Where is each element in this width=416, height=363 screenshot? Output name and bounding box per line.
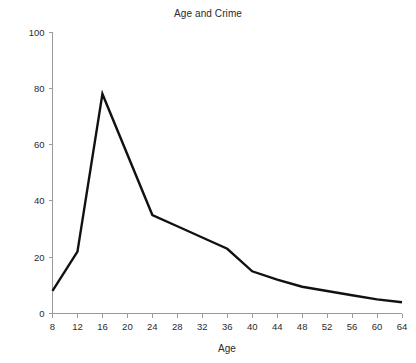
x-axis: 81216202428323640444852566064 [50,314,407,332]
x-tick-label: 16 [97,321,108,332]
chart-container: Age and Crime Crime Rate Age 02040608010… [0,0,416,363]
x-tick-label: 64 [397,321,408,332]
y-axis: 020406080100 [29,27,53,320]
x-tick-label: 56 [347,321,358,332]
x-tick-label: 48 [297,321,308,332]
plot-area: 020406080100 812162024283236404448525660… [0,0,416,363]
x-tick-label: 28 [172,321,183,332]
y-tick-label: 0 [39,308,44,319]
x-tick-label: 12 [72,321,83,332]
y-tick-label: 60 [34,139,45,150]
x-tick-label: 20 [122,321,133,332]
x-tick-group: 81216202428323640444852566064 [50,314,407,332]
x-tick-label: 60 [372,321,383,332]
x-tick-label: 24 [147,321,158,332]
y-tick-label: 100 [29,27,45,38]
x-tick-label: 36 [222,321,233,332]
y-tick-group: 020406080100 [29,27,53,320]
y-tick-label: 40 [34,195,45,206]
x-tick-label: 44 [272,321,283,332]
crime-rate-line [53,94,403,302]
x-tick-label: 32 [197,321,208,332]
x-tick-label: 8 [50,321,55,332]
y-tick-label: 20 [34,252,45,263]
y-tick-label: 80 [34,83,45,94]
x-tick-label: 40 [247,321,258,332]
x-tick-label: 52 [322,321,333,332]
